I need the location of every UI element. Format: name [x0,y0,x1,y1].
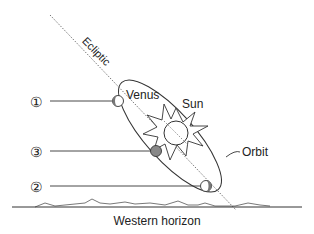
position-marker-1: ① [30,94,43,110]
venus-position-1-icon [113,96,124,107]
position-marker-3: ③ [30,144,43,160]
horizon-terrain [35,199,270,207]
venus-phases-diagram: Ecliptic Sun Venus Orbit ① ③ ② Western h… [0,0,314,234]
position-marker-2: ② [30,179,43,195]
venus-position-2-icon [201,181,212,192]
ecliptic-label: Ecliptic [80,34,113,68]
sun-label: Sun [182,97,203,111]
horizon-label: Western horizon [113,214,200,228]
orbit-label: Orbit [242,145,269,159]
venus-label: Venus [126,88,159,102]
orbit-leader-line [226,152,240,157]
venus-position-3-icon [151,146,162,157]
